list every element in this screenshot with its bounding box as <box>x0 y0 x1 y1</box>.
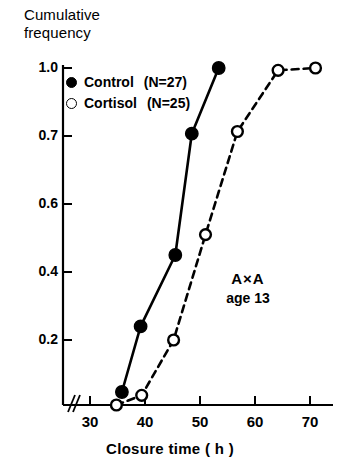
data-point-open-circle <box>310 63 321 74</box>
data-point-open-circle <box>168 335 179 346</box>
data-point-filled-circle <box>134 320 146 332</box>
axis-break-icon <box>68 395 80 412</box>
y-tick-label: 0.6 <box>18 195 58 211</box>
chart-annotation: A×A age 13 <box>200 270 296 306</box>
data-point-open-circle <box>232 126 243 137</box>
x-tick-label: 30 <box>70 413 110 430</box>
y-tick-label: 0.7 <box>18 127 58 143</box>
y-tick-label: 1.0 <box>18 59 58 75</box>
x-tick-label: 40 <box>125 413 165 430</box>
data-point-filled-circle <box>186 128 198 140</box>
y-tick-label: 0.2 <box>18 331 58 347</box>
y-tick-label: 0.4 <box>18 263 58 279</box>
series-line <box>116 68 315 405</box>
data-point-open-circle <box>136 390 147 401</box>
annotation-age-label: age 13 <box>200 290 296 306</box>
x-tick-label: 70 <box>290 413 330 430</box>
cumulative-frequency-chart: Cumulative frequency Control (N=27) Cort… <box>0 0 340 470</box>
data-point-filled-circle <box>169 249 181 261</box>
x-tick-label: 60 <box>235 413 275 430</box>
data-point-open-circle <box>273 65 284 76</box>
data-point-open-circle <box>200 229 211 240</box>
x-tick-label: 50 <box>180 413 220 430</box>
data-point-filled-circle <box>213 62 225 74</box>
x-axis-title: Closure time ( h ) <box>0 440 340 457</box>
annotation-cross-label: A×A <box>200 270 296 287</box>
data-point-filled-circle <box>116 386 128 398</box>
data-point-open-circle <box>111 400 122 411</box>
series-cortisol <box>111 63 321 411</box>
